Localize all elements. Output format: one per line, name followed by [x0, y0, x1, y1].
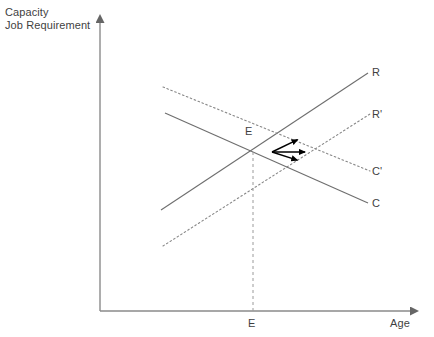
equilibrium-label: E	[245, 125, 252, 138]
arrow-down-right-icon	[272, 152, 297, 160]
axes-group	[100, 22, 411, 311]
capacity-age-diagram: Capacity Job Requirement R R' C' C E E A…	[0, 0, 434, 337]
y-axis-caption-line1: Capacity	[5, 6, 90, 19]
diagram-canvas	[0, 0, 434, 337]
equilibrium-axis-label: E	[248, 317, 255, 330]
x-axis-label: Age	[390, 317, 410, 330]
y-axis-caption: Capacity Job Requirement	[5, 6, 90, 32]
curve-label-C: C	[372, 197, 380, 210]
curve-label-R-prime: R'	[372, 108, 382, 121]
y-axis-caption-line2: Job Requirement	[5, 19, 90, 32]
curve-label-C-prime: C'	[372, 165, 382, 178]
curve-R-prime	[163, 114, 370, 246]
curves-group	[161, 73, 370, 246]
curve-C	[165, 113, 368, 203]
curve-label-R: R	[372, 66, 380, 79]
arrow-up-right-icon	[272, 140, 298, 152]
